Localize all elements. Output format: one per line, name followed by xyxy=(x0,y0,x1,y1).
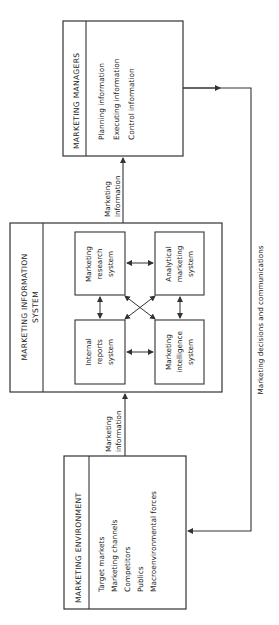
svg-text:Marketing: Marketing xyxy=(103,181,112,217)
marketing-information-system-box: MARKETING INFORMATION SYSTEM Marketing r… xyxy=(10,223,222,392)
svg-text:reports: reports xyxy=(95,339,104,365)
mis-title-line1: MARKETING INFORMATION xyxy=(20,253,29,360)
marketing-research-system-box: Marketing research system xyxy=(75,232,125,295)
environment-title: MARKETING ENVIRONMENT xyxy=(74,492,83,603)
svg-text:system: system xyxy=(106,251,115,277)
mis-to-managers-arrow: Marketing information xyxy=(103,158,123,223)
managers-item: Planning information xyxy=(97,63,106,140)
svg-text:system: system xyxy=(186,251,195,277)
environment-item: Target markets xyxy=(97,537,106,593)
feedback-loop-arrow xyxy=(183,88,251,531)
environment-item: Competitors xyxy=(123,546,132,592)
svg-text:marketing: marketing xyxy=(175,246,184,283)
svg-text:system: system xyxy=(186,339,195,365)
svg-text:Marketing: Marketing xyxy=(164,334,173,370)
svg-text:information: information xyxy=(114,411,123,452)
marketing-managers-box: MARKETING MANAGERS Planning information … xyxy=(63,21,183,156)
environment-item: Macroenvironmental forces xyxy=(149,491,158,592)
marketing-information-system-diagram: MARKETING MANAGERS Planning information … xyxy=(0,0,279,625)
marketing-intelligence-system-box: Marketing intelligence system xyxy=(155,320,204,384)
svg-text:Marketing: Marketing xyxy=(104,416,113,452)
environment-item: Publics xyxy=(136,566,145,592)
mis-title-line2: SYSTEM xyxy=(31,291,40,323)
environment-item: Marketing channels xyxy=(110,520,119,592)
svg-text:Marketing: Marketing xyxy=(84,246,93,282)
feedback-label: Marketing decisions and communications xyxy=(256,245,265,394)
svg-text:Analytical: Analytical xyxy=(164,246,173,281)
svg-text:intelligence: intelligence xyxy=(175,331,184,373)
svg-text:Internal: Internal xyxy=(84,338,93,366)
svg-text:research: research xyxy=(95,248,104,279)
marketing-environment-box: MARKETING ENVIRONMENT Target markets Mar… xyxy=(64,456,186,609)
analytical-marketing-system-box: Analytical marketing system xyxy=(155,232,204,295)
internal-reports-system-box: Internal reports system xyxy=(75,320,125,384)
svg-text:system: system xyxy=(106,339,115,365)
env-to-mis-arrow: Marketing information xyxy=(104,394,125,456)
managers-item: Executing information xyxy=(112,58,121,140)
managers-item: Control information xyxy=(127,68,136,140)
svg-text:information: information xyxy=(113,176,122,217)
managers-title: MARKETING MANAGERS xyxy=(72,53,81,149)
